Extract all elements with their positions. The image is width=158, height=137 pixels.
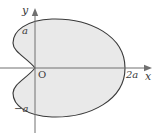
x-axis-label: x bbox=[145, 71, 151, 82]
y-tick-label-a: a bbox=[22, 26, 28, 36]
cardioid-figure: y x a −a 2a O bbox=[0, 0, 158, 137]
y-tick-label-negative-a: −a bbox=[14, 104, 28, 114]
x-tick-label-two-a: 2a bbox=[126, 70, 138, 80]
y-axis-label: y bbox=[22, 5, 28, 16]
y-axis-arrow-icon bbox=[32, 8, 38, 16]
origin-label: O bbox=[38, 70, 46, 80]
